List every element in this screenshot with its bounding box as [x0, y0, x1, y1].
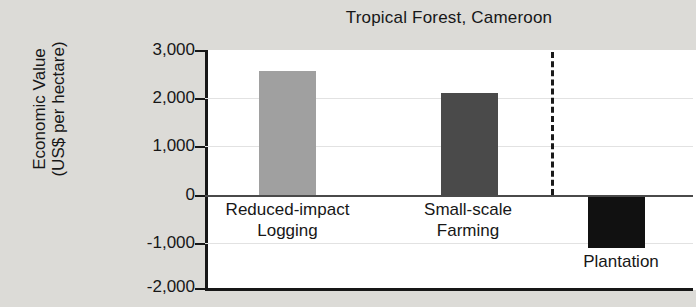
y-tick-label-0: 0	[120, 185, 195, 205]
bar-small-scale-farming	[441, 93, 498, 195]
category-label-line-1: Plantation	[555, 252, 687, 273]
y-axis-title: Economic Value (US$ per hectare)	[22, 0, 76, 224]
category-label-line-2: Farming	[393, 221, 543, 242]
chart-title: Tropical Forest, Cameroon	[205, 8, 693, 28]
bar-reduced-impact-logging	[259, 71, 316, 195]
category-label-small-scale-farming: Small-scale Farming	[393, 200, 543, 241]
y-tick-label-2000: 2,000	[120, 88, 195, 108]
y-tick-label-1000: 1,000	[120, 136, 195, 156]
y-axis-title-line-1: Economic Value	[30, 48, 49, 170]
zero-line	[205, 195, 693, 197]
category-label-line-1: Small-scale	[393, 200, 543, 221]
y-tick-label-3000: 3,000	[120, 40, 195, 60]
y-axis-tick-labels: 3,000 2,000 1,000 0 -1,000 -2,000	[120, 0, 195, 307]
y-tick-label-neg2000: -2,000	[120, 277, 195, 297]
category-label-reduced-impact-logging: Reduced-impact Logging	[205, 200, 370, 241]
category-label-line-2: Logging	[205, 221, 370, 242]
y-tick-label-neg1000: -1,000	[120, 233, 195, 253]
x-axis-line	[205, 288, 693, 291]
bar-plantation	[588, 197, 645, 248]
y-axis-title-line-2: (US$ per hectare)	[49, 41, 68, 176]
category-label-plantation: Plantation	[555, 252, 687, 273]
category-divider-dashed-line	[551, 52, 554, 195]
category-label-line-1: Reduced-impact	[205, 200, 370, 221]
